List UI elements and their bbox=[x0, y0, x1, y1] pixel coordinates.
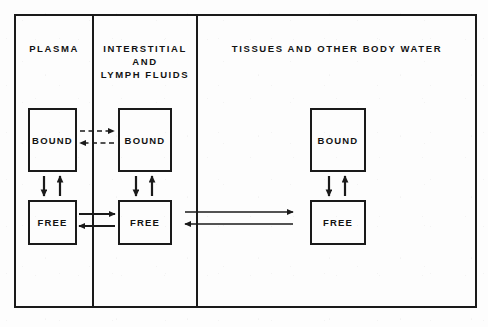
box-interstitial-free: FREE bbox=[118, 200, 172, 245]
box-interstitial-bound: BOUND bbox=[118, 108, 172, 172]
column-title-tissues: TISSUES AND OTHER BODY WATER bbox=[198, 42, 476, 55]
box-tissues-bound: BOUND bbox=[310, 108, 366, 172]
column-divider-interstitial-tissues bbox=[196, 14, 198, 308]
diagram-canvas: PLASMA INTERSTITIAL AND LYMPH FLUIDS TIS… bbox=[0, 0, 488, 327]
box-plasma-free: FREE bbox=[28, 200, 77, 245]
diagram-frame bbox=[14, 14, 477, 308]
column-title-interstitial: INTERSTITIAL AND LYMPH FLUIDS bbox=[94, 42, 196, 81]
box-plasma-bound: BOUND bbox=[28, 108, 77, 172]
column-title-plasma: PLASMA bbox=[16, 42, 92, 55]
box-tissues-free: FREE bbox=[310, 200, 366, 245]
